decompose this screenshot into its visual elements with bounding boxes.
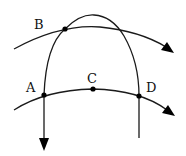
label-b: B xyxy=(34,17,44,32)
label-d: D xyxy=(146,80,156,95)
upper-curve-arrowhead xyxy=(161,42,174,53)
point-c-dot xyxy=(90,86,95,91)
arch-down-arrowhead xyxy=(39,138,49,151)
label-a: A xyxy=(25,80,36,95)
diagram-canvas: B A C D xyxy=(0,0,186,156)
point-a-dot xyxy=(41,92,46,97)
label-c: C xyxy=(87,71,97,86)
point-d-dot xyxy=(136,93,141,98)
point-b-dot xyxy=(62,26,67,31)
lower-curve xyxy=(14,89,167,110)
lower-curve-arrowhead xyxy=(162,105,175,116)
